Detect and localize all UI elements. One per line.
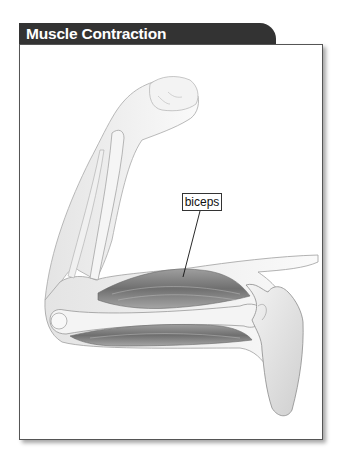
label-leader-line [0,0,348,460]
biceps-label: biceps [182,193,222,211]
